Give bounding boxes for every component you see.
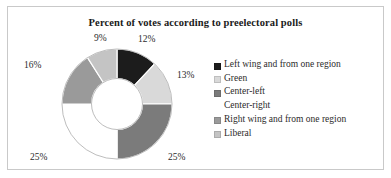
legend-item-right-wing[interactable]: Right wing and from one region <box>214 114 391 125</box>
donut-chart <box>60 47 174 161</box>
donut-slice <box>117 104 172 159</box>
page-title: Percent of votes according to preelector… <box>8 17 383 28</box>
legend-swatch-icon <box>214 104 221 111</box>
legend-swatch-icon <box>214 63 221 70</box>
legend-item-label: Green <box>224 73 247 84</box>
legend-swatch-icon <box>214 131 221 138</box>
legend-item-label: Liberal <box>224 128 251 139</box>
legend-swatch-icon <box>214 76 221 83</box>
chart-legend: Left wing and from one region Green Cent… <box>214 59 391 141</box>
legend-swatch-icon <box>214 90 221 97</box>
slice-label-12: 12% <box>138 35 155 45</box>
chart-frame: Percent of votes according to preelector… <box>7 6 384 170</box>
slice-label-13: 13% <box>177 71 194 81</box>
legend-item-liberal[interactable]: Liberal <box>214 128 391 139</box>
slice-label-16: 16% <box>24 61 41 71</box>
legend-item-green[interactable]: Green <box>214 73 391 84</box>
slice-label-25-center-left: 25% <box>168 153 185 163</box>
donut-svg <box>60 47 174 161</box>
donut-inner-ring <box>92 79 143 130</box>
legend-item-center-left[interactable]: Center-left <box>214 86 391 97</box>
legend-item-label: Center-left <box>224 86 265 97</box>
donut-slice <box>62 104 117 159</box>
legend-item-label: Left wing and from one region <box>224 59 341 70</box>
legend-swatch-icon <box>214 117 221 124</box>
legend-item-left-wing[interactable]: Left wing and from one region <box>214 59 391 70</box>
legend-item-center-right[interactable]: Center-right <box>214 100 391 111</box>
slice-label-25-center-right: 25% <box>30 153 47 163</box>
donut-plot-area: 12% 13% 25% 25% 16% 9% <box>22 33 212 173</box>
legend-item-label: Right wing and from one region <box>224 114 346 125</box>
slice-label-9: 9% <box>94 34 107 44</box>
legend-item-label: Center-right <box>224 100 270 111</box>
chart-figure: Percent of votes according to preelector… <box>0 0 391 178</box>
